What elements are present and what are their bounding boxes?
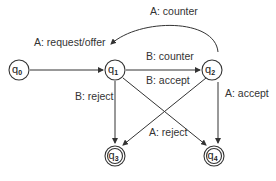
edge-label-q1-q3: B: reject xyxy=(75,90,114,102)
edge-label-q1-q2: B: counter xyxy=(146,50,194,62)
node-q3: q3 xyxy=(105,146,125,166)
edge-label-q1-q4: A: reject xyxy=(149,126,188,138)
edge-label-q0-q1: A: request/offer xyxy=(34,36,106,48)
edge-label-q2-q1: A: counter xyxy=(150,5,198,17)
state-diagram: A: request/offer B: counter A: counter B… xyxy=(0,0,276,181)
edge-label-q2-q4: A: accept xyxy=(225,87,269,99)
node-q4: q4 xyxy=(204,146,224,166)
node-q1: q1 xyxy=(105,60,125,80)
edge-label-q2-q3: B: accept xyxy=(146,74,190,86)
node-q0: q0 xyxy=(9,60,29,80)
node-q2: q2 xyxy=(202,60,222,80)
edge-q2-q1 xyxy=(111,25,218,52)
